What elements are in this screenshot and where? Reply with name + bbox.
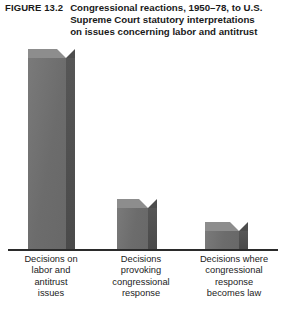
category-label-decisions-provoking-congressional-response: Decisions provoking congressional respon… [95, 254, 187, 300]
bar-top-face [205, 222, 239, 231]
bar-top-face [28, 49, 66, 58]
figure-number-label: FIGURE 13.2 [0, 2, 63, 13]
source-note-cutoff [0, 303, 284, 311]
bar-decisions-provoking-congressional-response [117, 199, 148, 249]
bar-front-face [117, 208, 148, 249]
category-label-line: labor and [4, 265, 98, 276]
x-axis-category-labels: Decisions on labor and antitrust issues … [0, 254, 284, 304]
category-label-line: congressional [184, 265, 284, 276]
bar-side-face [239, 231, 248, 249]
category-label-line: Decisions [95, 254, 187, 265]
category-label-line: provoking [95, 265, 187, 276]
category-label-line: response [95, 288, 187, 299]
bar-decisions-on-labor-and-antitrust-issues [28, 49, 66, 249]
category-label-decisions-on-labor-and-antitrust-issues: Decisions on labor and antitrust issues [4, 254, 98, 300]
category-label-line: Decisions on [4, 254, 98, 265]
x-axis-baseline [8, 249, 278, 251]
figure-header: FIGURE 13.2 Congressional reactions, 195… [0, 0, 284, 46]
bar-decisions-where-congressional-response-becomes-law [205, 222, 239, 249]
category-label-line: Decisions where [184, 254, 284, 265]
figure-title-line-2: Supreme Court statutory interpretations [70, 14, 284, 26]
figure-title-line-1: Congressional reactions, 1950–78, to U.S… [70, 2, 284, 14]
category-label-line: congressional [95, 277, 187, 288]
category-label-decisions-where-congressional-response-becomes-law: Decisions where congressional response b… [184, 254, 284, 300]
bar-front-face [205, 231, 239, 249]
bar-side-face [66, 58, 75, 249]
category-label-line: becomes law [184, 288, 284, 299]
category-label-line: issues [4, 288, 98, 299]
figure-title: Congressional reactions, 1950–78, to U.S… [63, 2, 284, 39]
bar-side-face [148, 208, 157, 249]
category-label-line: antitrust [4, 277, 98, 288]
bar-chart-plot-area [0, 46, 284, 252]
figure-title-line-3: on issues concerning labor and antitrust [70, 26, 284, 38]
category-label-line: response [184, 277, 284, 288]
bar-top-face [117, 199, 148, 208]
bar-front-face [28, 58, 66, 249]
